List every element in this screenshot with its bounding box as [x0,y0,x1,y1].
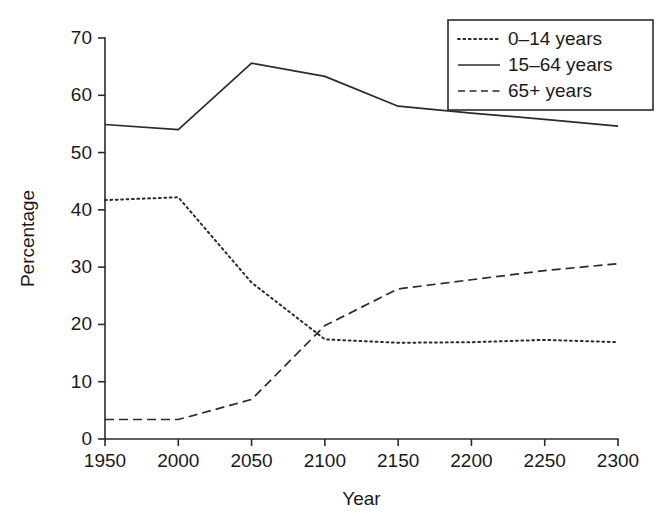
x-tick-label: 2200 [450,450,492,471]
y-tick-label: 70 [71,27,92,48]
y-tick-label: 40 [71,199,92,220]
legend-label: 15–64 years [508,54,613,75]
legend-label: 65+ years [508,80,592,101]
chart-legend: 0–14 years15–64 years65+ years [448,20,653,110]
x-axis-title: Year [342,488,381,509]
y-axis-title: Percentage [17,190,38,287]
x-tick-label: 2100 [304,450,346,471]
y-tick-label: 0 [81,428,92,449]
x-tick-label: 2000 [157,450,199,471]
x-tick-label: 2150 [377,450,419,471]
x-tick-label: 2050 [230,450,272,471]
y-tick-label: 10 [71,371,92,392]
y-tick-label: 60 [71,84,92,105]
x-tick-label: 1950 [84,450,126,471]
x-tick-label: 2250 [524,450,566,471]
population-age-structure-line-chart: 010203040506070 195020002050210021502200… [0,0,667,529]
legend-label: 0–14 years [508,28,602,49]
x-tick-label: 2300 [597,450,639,471]
chart-container: 010203040506070 195020002050210021502200… [0,0,667,529]
y-tick-label: 50 [71,142,92,163]
y-tick-label: 30 [71,256,92,277]
y-tick-label: 20 [71,313,92,334]
